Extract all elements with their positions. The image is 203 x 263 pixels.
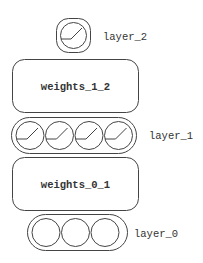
weights-0-1-group: weights_0_1 — [13, 158, 139, 211]
neuron-activation-icon — [16, 122, 44, 150]
layer-2-container — [57, 19, 91, 53]
neuron-circle-icon — [91, 219, 119, 247]
neuron-activation-icon — [61, 23, 87, 49]
neuron-activation-icon — [46, 122, 74, 150]
layer-1-label: layer_1 — [149, 130, 193, 142]
layer-2-group: layer_2 — [57, 19, 148, 53]
neuron-circle-icon — [32, 219, 60, 247]
layer-0-group: layer_0 — [28, 215, 179, 251]
neuron-circle-icon — [62, 219, 90, 247]
neuron-activation-icon — [105, 122, 133, 150]
network-diagram: layer_2 weights_1_2 layer_1 weights_0_1 — [0, 0, 203, 263]
weights-1-2-label: weights_1_2 — [41, 81, 110, 93]
layer-2-label: layer_2 — [103, 31, 147, 43]
neuron-activation-icon — [75, 122, 103, 150]
layer-0-label: layer_0 — [134, 228, 178, 240]
weights-0-1-label: weights_0_1 — [41, 179, 110, 191]
layer-1-group: layer_1 — [12, 118, 194, 154]
weights-1-2-group: weights_1_2 — [13, 60, 139, 113]
layer-0-container — [28, 215, 128, 251]
